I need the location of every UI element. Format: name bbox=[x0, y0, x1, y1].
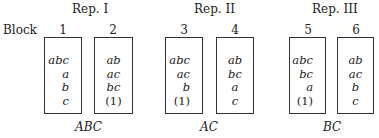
treatment: ab bbox=[338, 54, 373, 68]
treatment: c bbox=[45, 95, 69, 109]
treatment: a bbox=[290, 81, 313, 95]
block-6-number: 6 bbox=[336, 23, 376, 37]
block-4-number: 4 bbox=[215, 23, 255, 37]
treatment: abc bbox=[290, 54, 313, 68]
treatment: b bbox=[166, 81, 190, 95]
treatment: ab bbox=[217, 54, 253, 68]
treatment: ac bbox=[338, 68, 373, 82]
rep-1-confounded-effect: ABC bbox=[75, 120, 102, 134]
block-3-box: abc ac b (1) bbox=[165, 37, 203, 114]
treatment: bc bbox=[290, 68, 313, 82]
treatment: b bbox=[45, 81, 69, 95]
rep-2-confounded-effect: AC bbox=[200, 120, 218, 134]
block-5-box: abc bc a (1) bbox=[289, 37, 326, 114]
treatment: (1) bbox=[95, 95, 132, 109]
treatment: ab bbox=[95, 54, 132, 68]
block-2-number: 2 bbox=[93, 23, 133, 37]
block-4-box: ab bc a c bbox=[216, 37, 254, 114]
treatment: c bbox=[217, 95, 253, 109]
block-5-number: 5 bbox=[288, 23, 328, 37]
block-1-box: abc a b c bbox=[44, 37, 82, 114]
treatment: b bbox=[338, 81, 373, 95]
rep-1-label: Rep. I bbox=[72, 2, 108, 16]
rep-3-confounded-effect: BC bbox=[323, 120, 341, 134]
treatment: a bbox=[217, 81, 253, 95]
treatment: (1) bbox=[166, 95, 190, 109]
treatment: bc bbox=[217, 68, 253, 82]
treatment: abc bbox=[45, 54, 69, 68]
treatment: bc bbox=[95, 81, 132, 95]
treatment: (1) bbox=[290, 95, 313, 109]
rep-2-label: Rep. II bbox=[194, 2, 235, 16]
block-6-box: ab ac b c bbox=[337, 37, 374, 114]
block-3-number: 3 bbox=[164, 23, 204, 37]
treatment: ac bbox=[95, 68, 132, 82]
treatment: a bbox=[45, 68, 69, 82]
block-1-number: 1 bbox=[43, 23, 83, 37]
block-2-box: ab ac bc (1) bbox=[94, 37, 133, 114]
treatment: c bbox=[338, 95, 373, 109]
block-row-label: Block bbox=[3, 23, 37, 37]
treatment: ac bbox=[166, 68, 190, 82]
treatment: abc bbox=[166, 54, 190, 68]
rep-3-label: Rep. III bbox=[312, 2, 358, 16]
